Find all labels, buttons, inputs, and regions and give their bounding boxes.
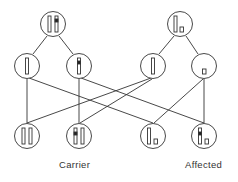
parent-carrier-cell: [41, 12, 66, 37]
carrier-label: Carrier: [59, 159, 90, 170]
connector-line: [154, 79, 203, 123]
offspring-4-cell: [192, 124, 217, 149]
gamete-3-cell: [141, 54, 166, 79]
chromosome-normal-icon: [152, 58, 155, 74]
connector-line: [80, 79, 152, 123]
chromosome-short-icon: [154, 139, 158, 144]
connector-line: [159, 36, 174, 54]
connector-line: [27, 78, 151, 123]
offspring-1-cell: [15, 124, 40, 149]
gamete-1-cell: [15, 54, 40, 79]
chromosome-normal-icon: [148, 128, 151, 144]
parent-affected-cell: [168, 12, 193, 37]
offspring-3-cell: [141, 124, 166, 149]
affected-label: Affected: [185, 159, 222, 170]
connector-line: [186, 36, 198, 54]
chromosome-normal-icon: [26, 58, 29, 74]
chromosome-marked-icon: [199, 128, 202, 144]
chromosome-short-icon: [180, 27, 184, 32]
allele-mark-icon: [78, 61, 81, 64]
connector-line: [33, 36, 47, 54]
chromosome-short-icon: [203, 69, 207, 74]
allele-mark-icon: [55, 19, 58, 22]
chromosome-normal-icon: [48, 16, 51, 32]
gamete-2-cell: [67, 54, 92, 79]
chromosome-normal-icon: [174, 16, 177, 32]
chromosome-normal-icon: [29, 128, 32, 144]
chromosome-short-icon: [205, 139, 209, 144]
allele-mark-icon: [74, 132, 77, 135]
gamete-4-cell: [192, 54, 217, 79]
connector-line: [59, 36, 73, 54]
chromosome-marked-icon: [55, 16, 58, 32]
inheritance-diagram: [0, 0, 238, 182]
chromosome-normal-icon: [81, 128, 84, 144]
offspring-2-cell: [67, 124, 92, 149]
chromosome-marked-icon: [78, 58, 81, 74]
chromosome-marked-icon: [74, 128, 77, 144]
chromosome-normal-icon: [22, 128, 25, 144]
allele-mark-icon: [199, 132, 202, 135]
